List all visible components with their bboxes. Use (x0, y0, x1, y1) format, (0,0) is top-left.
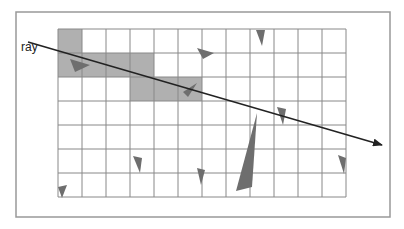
triangle (133, 156, 142, 173)
ray-label: ray (21, 40, 38, 54)
triangle (197, 168, 205, 185)
shaded-cell (130, 77, 154, 101)
triangle (338, 155, 346, 174)
triangle (58, 185, 67, 198)
shaded-cell (58, 29, 82, 53)
triangle (256, 30, 265, 46)
shaded-cell (154, 77, 178, 101)
ray-grid-diagram (0, 0, 404, 229)
